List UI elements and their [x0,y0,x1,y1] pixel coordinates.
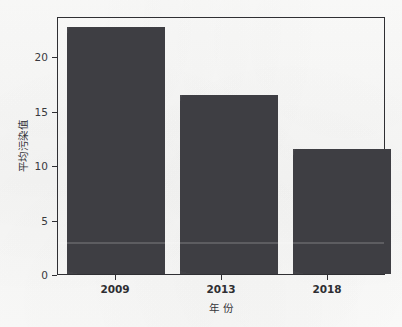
y-tick-label-20: 20 [34,51,48,63]
y-tick-label-0: 0 [41,269,48,281]
bar-2013 [180,95,278,274]
bar-2009 [67,27,165,274]
y-axis-title: 平均污染值 [15,120,30,172]
x-tick-label-2013: 2013 [206,283,235,295]
plot-area [58,18,384,274]
x-tick-mark-2009 [115,275,116,280]
y-tick-label-15: 15 [34,106,48,118]
y-tick-label-5: 5 [41,215,48,227]
x-axis-title: 年 份 [209,300,234,315]
x-tick-mark-2018 [327,275,328,280]
bar-2018 [293,149,391,274]
x-tick-label-2018: 2018 [312,283,341,295]
bar-chart-figure: 0 5 10 15 20 2009 2013 2018 平均污染值 年 份 [0,0,402,327]
y-tick-label-10: 10 [34,160,48,172]
y-tick-mark-0 [52,275,57,276]
x-tick-label-2009: 2009 [100,283,129,295]
plot-frame [57,17,385,275]
x-tick-mark-2013 [221,275,222,280]
